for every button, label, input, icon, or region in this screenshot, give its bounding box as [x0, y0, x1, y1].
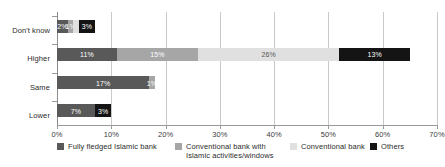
- legend-swatch-icon: [175, 143, 182, 150]
- bar-value-label: 26%: [262, 51, 276, 58]
- x-tick-mark: [57, 125, 58, 129]
- x-tick-label: 50%: [321, 130, 336, 139]
- bar-value-label: 17%: [96, 79, 110, 86]
- y-tick-mark: [52, 44, 57, 45]
- legend-swatch-icon: [370, 143, 377, 150]
- bar-value-label: 1%: [147, 79, 157, 86]
- legend-swatch-icon: [290, 143, 297, 150]
- legend-label: Conventional bank: [301, 142, 365, 151]
- bar-segment: 11%: [57, 48, 117, 61]
- legend-label: Fully fledged Islamic bank: [68, 142, 157, 151]
- bar-segment: 17%: [57, 76, 149, 89]
- y-tick-mark: [52, 101, 57, 102]
- bar-row: 11%15%26%13%: [57, 48, 437, 61]
- legend-item[interactable]: Others: [370, 142, 404, 151]
- bar-row: 7%3%: [57, 104, 437, 117]
- legend-item[interactable]: Conventional bank: [290, 142, 365, 151]
- y-tick-label: Higher: [27, 54, 50, 63]
- legend-label: Others: [381, 142, 404, 151]
- bar-value-label: 15%: [150, 51, 164, 58]
- x-tick-label: 40%: [266, 130, 281, 139]
- y-tick-label: Don't know: [12, 26, 50, 35]
- legend-item[interactable]: Conventional bank with Islamic activitie…: [175, 142, 274, 160]
- bar-row: 17%1%: [57, 76, 437, 89]
- y-tick-label: Lower: [29, 111, 50, 120]
- bar-segment: 13%: [339, 48, 410, 61]
- y-tick-mark: [52, 73, 57, 74]
- y-tick-label: Same: [30, 83, 50, 92]
- bar-segment: 3%: [95, 104, 111, 117]
- x-tick-label: 20%: [158, 130, 173, 139]
- bar-value-label: 7%: [71, 107, 81, 114]
- bar-value-label: 13%: [367, 51, 381, 58]
- bar-segment: 7%: [57, 104, 95, 117]
- legend-label: Conventional bank with Islamic activitie…: [186, 142, 274, 160]
- legend-item[interactable]: Fully fledged Islamic bank: [57, 142, 157, 151]
- bar-value-label: 3%: [98, 107, 108, 114]
- bar-row: 2%1%3%: [57, 20, 437, 33]
- x-tick-mark: [437, 125, 438, 129]
- x-tick-mark: [274, 125, 275, 129]
- x-tick-label: 60%: [375, 130, 390, 139]
- x-tick-label: 70%: [429, 130, 444, 139]
- gridline-70pct: [437, 12, 438, 125]
- x-tick-mark: [166, 125, 167, 129]
- x-tick-label: 10%: [104, 130, 119, 139]
- x-tick-mark: [383, 125, 384, 129]
- x-tick-mark: [111, 125, 112, 129]
- bar-segment: 15%: [117, 48, 198, 61]
- legend-swatch-icon: [57, 143, 64, 150]
- bar-segment: 1%: [149, 76, 154, 89]
- x-tick-label: 0%: [51, 130, 62, 139]
- x-tick-mark: [220, 125, 221, 129]
- x-axis-line: [57, 125, 438, 126]
- bar-segment: 3%: [79, 20, 95, 33]
- chart-legend: Fully fledged Islamic bankConventional b…: [0, 142, 441, 167]
- bar-value-label: 3%: [82, 23, 92, 30]
- bar-segment: 26%: [198, 48, 339, 61]
- bar-value-label: 11%: [80, 51, 94, 58]
- y-tick-mark: [52, 16, 57, 17]
- x-tick-label: 30%: [212, 130, 227, 139]
- x-tick-mark: [328, 125, 329, 129]
